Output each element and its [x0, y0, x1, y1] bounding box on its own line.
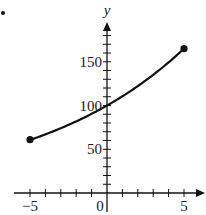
y-axis-label: y: [102, 2, 111, 18]
y-tick-label: 150: [80, 54, 103, 70]
y-axis-arrow-icon: [103, 22, 111, 31]
axes: [14, 22, 205, 212]
x-tick-label: −5: [22, 198, 38, 214]
x-tick-label: 5: [180, 198, 188, 214]
y-tick-label: 50: [87, 141, 102, 157]
endpoint-dot: [180, 45, 187, 52]
chart: −50550100150 y: [0, 0, 206, 215]
x-tick-label: 0: [96, 198, 104, 214]
endpoint-dot: [26, 136, 33, 143]
x-axis-arrow-icon: [196, 189, 205, 197]
list-marker-dot: [1, 11, 5, 15]
